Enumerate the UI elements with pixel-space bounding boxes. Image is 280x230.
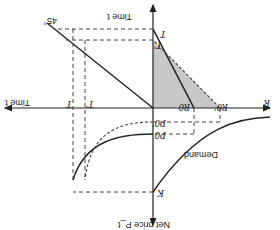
forty-five-degree-line bbox=[47, 23, 153, 108]
label-T: T bbox=[159, 29, 166, 40]
price-path-dashed bbox=[85, 122, 153, 180]
label-R0: R0 bbox=[179, 102, 191, 113]
label-demand: Demand bbox=[184, 150, 218, 160]
label-T-prime-left: T' bbox=[85, 99, 94, 110]
axis-label-net-price: Net price P_t bbox=[117, 220, 170, 230]
label-P0-prime: P0' bbox=[152, 118, 167, 129]
label-T-prime: T' bbox=[153, 40, 162, 51]
diagram-stage: Time t Time t R Net price P_t T T' T T' … bbox=[0, 0, 280, 230]
axis-label-R: R bbox=[264, 98, 271, 109]
axis-label-time-top: Time t bbox=[107, 12, 132, 22]
resource-depletion-diagram: Time t Time t R Net price P_t T T' T T' … bbox=[0, 0, 280, 230]
axis-label-time-left: Time t bbox=[5, 98, 30, 108]
label-45-degrees: 45° bbox=[43, 16, 57, 26]
label-R0-prime: R0' bbox=[214, 102, 229, 113]
label-P0: P0 bbox=[155, 130, 167, 141]
label-K: K bbox=[156, 188, 165, 199]
